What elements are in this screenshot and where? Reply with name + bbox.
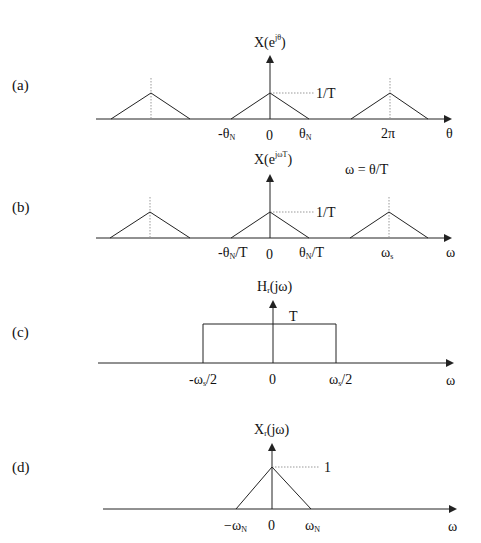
panel-a-x-axis-symbol: θ xyxy=(446,127,453,141)
diagram-canvas xyxy=(0,0,481,543)
panel-a-peak-label: 1/T xyxy=(316,87,335,101)
y-label-base: H xyxy=(257,279,267,294)
panel-b-tick-theta-n-over-t: θN/T xyxy=(299,246,324,261)
panel-a-tick-zero: 0 xyxy=(266,129,273,143)
panel-c-level-label: T xyxy=(289,310,298,324)
panel-b-peak-label: 1/T xyxy=(316,206,335,220)
panel-a-label: (a) xyxy=(12,78,29,93)
tick-tail: /T xyxy=(235,245,247,260)
tick-sub: N xyxy=(241,525,247,534)
tick-main: ω xyxy=(305,518,314,533)
y-label-base: X xyxy=(254,422,264,437)
y-label-close: (jω) xyxy=(270,279,292,294)
panel-a-tick-neg-theta-n: -θN xyxy=(218,127,235,142)
panel-c-y-axis-label: Hr(jω) xyxy=(257,280,292,295)
panel-b-plot xyxy=(96,176,450,238)
tick-main: -θ xyxy=(218,245,229,260)
tick-main: -θ xyxy=(218,126,229,141)
y-label-close: (jω) xyxy=(267,422,289,437)
panel-c-plot xyxy=(98,302,452,363)
tick-sub: N xyxy=(229,133,235,142)
panel-b-x-axis-symbol: ω xyxy=(446,246,455,260)
panel-b-y-axis-label: X(ejωT) xyxy=(254,151,292,167)
y-label-close: ) xyxy=(287,152,292,167)
panel-d-triangle xyxy=(236,467,311,509)
tick-main: θ xyxy=(299,245,306,260)
tick-tail: /2 xyxy=(206,372,217,387)
panel-d-tick-zero: 0 xyxy=(268,519,275,533)
panel-c-label: (c) xyxy=(12,325,29,340)
tick-main: ω xyxy=(329,372,338,387)
panel-d-y-axis-label: Xr(jω) xyxy=(254,423,289,438)
tick-main: −ω xyxy=(224,518,241,533)
y-label-base: X(e xyxy=(254,152,275,167)
tick-main: ω xyxy=(381,245,390,260)
tick-main: θ xyxy=(299,126,306,141)
panel-d-plot xyxy=(103,445,455,509)
panel-b-tick-omega-s: ωs xyxy=(381,246,393,261)
y-label-base: X(e xyxy=(254,35,275,50)
y-label-close: ) xyxy=(281,35,286,50)
panel-b-relation-label: ω = θ/T xyxy=(345,163,388,177)
panel-b-tick-neg-theta-n-over-t: -θN/T xyxy=(218,246,248,261)
panel-c-rect-filter xyxy=(203,324,336,363)
y-label-sup: jωT xyxy=(275,150,287,159)
panel-d-peak-label: 1 xyxy=(324,461,331,475)
tick-main: -ω xyxy=(189,372,203,387)
panel-a-plot xyxy=(96,57,450,119)
tick-tail: /2 xyxy=(341,372,352,387)
panel-c-tick-neg-omega-s-half: -ωs/2 xyxy=(189,373,217,388)
tick-sub: s xyxy=(390,252,393,261)
panel-b-tick-zero: 0 xyxy=(266,248,273,262)
tick-tail: /T xyxy=(312,245,324,260)
tick-sub: N xyxy=(306,133,312,142)
panel-c-tick-zero: 0 xyxy=(269,373,276,387)
panel-a-tick-theta-n: θN xyxy=(299,127,312,142)
panel-c-tick-omega-s-half: ωs/2 xyxy=(329,373,352,388)
panel-c-x-axis-symbol: ω xyxy=(446,374,455,388)
tick-sub: N xyxy=(314,525,320,534)
panel-d-tick-omega-n: ωN xyxy=(305,519,320,534)
panel-b-label: (b) xyxy=(12,200,30,215)
panel-a-tick-2pi: 2π xyxy=(381,127,395,141)
panel-a-y-axis-label: X(ejθ) xyxy=(254,34,286,50)
panel-d-x-axis-symbol: ω xyxy=(448,520,457,534)
panel-d-label: (d) xyxy=(12,460,30,475)
panel-d-tick-neg-omega-n: −ωN xyxy=(224,519,247,534)
